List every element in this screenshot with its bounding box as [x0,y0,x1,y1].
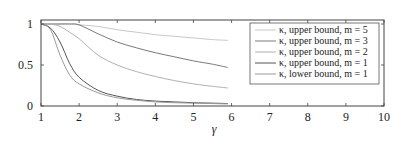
x-tick-label: 5 [190,110,196,124]
legend-entry: κ, upper bound, m = 5 [279,24,368,35]
x-axis-label: γ [212,122,217,136]
series-line [41,24,228,88]
legend-entry: κ, lower bound, m = 1 [279,68,368,79]
y-tick-label: 0 [27,99,33,113]
x-tick-label: 8 [305,110,311,124]
x-tick-label: 2 [76,110,82,124]
x-tick-label: 6 [229,110,235,124]
chart: 1234567891000.51 κ, upper bound, m = 5κ,… [0,0,407,146]
legend-entry: κ, upper bound, m = 1 [279,57,368,68]
legend-entry: κ, upper bound, m = 2 [279,46,368,57]
x-tick-label: 7 [267,110,273,124]
x-tick-label: 3 [114,110,120,124]
y-tick-label: 0.5 [18,58,33,72]
x-tick-label: 4 [152,110,158,124]
y-tick-label: 1 [27,17,33,31]
legend-entry: κ, upper bound, m = 3 [279,35,368,46]
series-line [41,24,228,68]
x-tick-label: 10 [378,110,390,124]
legend: κ, upper bound, m = 5κ, upper bound, m =… [250,23,379,84]
series-line [41,24,228,104]
x-tick-label: 9 [343,110,349,124]
x-tick-label: 1 [38,110,44,124]
series-line [41,24,228,104]
plot-area [41,24,228,104]
